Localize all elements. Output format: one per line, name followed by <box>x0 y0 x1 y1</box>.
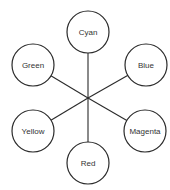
node-yellow: Yellow <box>12 110 54 152</box>
node-label-green: Green <box>22 61 44 70</box>
node-label-cyan: Cyan <box>79 28 98 37</box>
diagram-canvas: CyanBlueMagentaRedYellowGreen <box>0 0 170 190</box>
node-label-yellow: Yellow <box>22 127 45 136</box>
node-magenta: Magenta <box>124 110 166 152</box>
color-wheel-diagram: CyanBlueMagentaRedYellowGreen <box>0 0 170 190</box>
node-cyan: Cyan <box>67 11 109 53</box>
node-red: Red <box>67 142 109 184</box>
node-blue: Blue <box>125 44 167 86</box>
node-label-magenta: Magenta <box>129 127 161 136</box>
node-label-blue: Blue <box>138 61 155 70</box>
node-green: Green <box>12 44 54 86</box>
node-label-red: Red <box>81 159 96 168</box>
